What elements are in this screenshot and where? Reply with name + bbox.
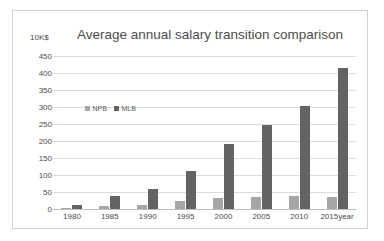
x-axis-tick-label: 1985 (91, 212, 129, 221)
x-axis-tick-label: 1990 (129, 212, 167, 221)
x-axis-unit-label: year (338, 212, 354, 221)
x-axis-tick-label: 2000 (205, 212, 243, 221)
legend-item-npb[interactable]: NPB (85, 105, 107, 112)
y-axis-tick-label: 400 (24, 69, 52, 78)
legend-swatch-icon (85, 106, 90, 111)
chart-legend: NPBMLB (85, 105, 136, 112)
y-axis-tick-label: 50 (24, 188, 52, 197)
y-axis-unit-label: 10K$ (30, 33, 49, 42)
x-axis-tick-label: 1980 (53, 212, 91, 221)
legend-swatch-icon (114, 106, 119, 111)
y-axis-tick-label: 0 (24, 205, 52, 214)
y-axis-tick-label: 250 (24, 120, 52, 129)
x-axis-ticks: 19801985199019952000200520102015year (53, 212, 356, 221)
y-axis-tick-label: 300 (24, 103, 52, 112)
y-axis-ticks: 050100150200250300350400450 (13, 56, 384, 209)
x-axis-tick-label: 2015year (318, 212, 356, 221)
legend-label: NPB (93, 105, 107, 112)
legend-label: MLB (121, 105, 135, 112)
x-axis-tick-label: 1995 (167, 212, 205, 221)
x-axis-tick-label: 2010 (280, 212, 318, 221)
y-axis-tick-label: 350 (24, 86, 52, 95)
y-axis-tick-label: 100 (24, 171, 52, 180)
y-axis-tick-label: 150 (24, 154, 52, 163)
chart-title: Average annual salary transition compari… (65, 27, 355, 42)
y-axis-tick-label: 450 (24, 52, 52, 61)
chart-container: 10K$ Average annual salary transition co… (12, 10, 368, 229)
gridline (53, 209, 356, 210)
x-axis-tick-label: 2005 (242, 212, 280, 221)
legend-item-mlb[interactable]: MLB (114, 105, 136, 112)
y-axis-tick-label: 200 (24, 137, 52, 146)
